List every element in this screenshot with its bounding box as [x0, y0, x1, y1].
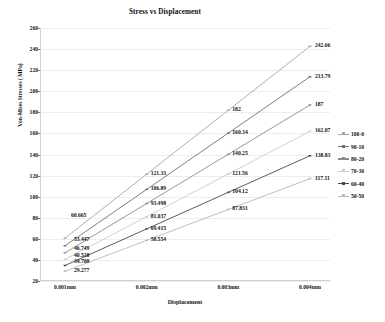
data-label: 69.415 [151, 225, 166, 231]
legend-swatch-icon [338, 193, 349, 199]
series-marker [64, 265, 67, 266]
x-axis-title: Displacement [40, 299, 330, 305]
data-label: 187 [315, 101, 323, 107]
legend-swatch-icon [338, 144, 349, 150]
data-label: 81.037 [151, 213, 166, 219]
series-marker [227, 154, 230, 155]
legend-swatch-icon [338, 156, 349, 162]
y-axis-tick-label: 120 [12, 173, 38, 179]
data-label: 93.498 [151, 200, 166, 206]
series-marker [64, 259, 67, 260]
y-axis-tick-label: 60 [12, 236, 38, 242]
series-marker [64, 237, 67, 238]
gridline [40, 281, 330, 282]
series-line [65, 156, 310, 266]
y-axis-tick-label: 20 [12, 278, 38, 284]
series-marker [145, 216, 148, 217]
data-label: 87.831 [232, 205, 247, 211]
data-label: 60.665 [71, 212, 86, 218]
legend-item[interactable]: 80-20 [338, 153, 385, 165]
series-marker [145, 228, 148, 229]
series-marker [145, 189, 148, 190]
series-marker [227, 209, 230, 210]
x-axis-tick-label: 0.002mm [122, 284, 172, 290]
data-label: 182 [232, 106, 240, 112]
y-axis-tick-label: 80 [12, 215, 38, 221]
y-axis-tick-label: 100 [12, 194, 38, 200]
y-axis-tick-label: 140 [12, 152, 38, 158]
legend-label: 50-50 [351, 193, 364, 199]
legend-item[interactable]: 70-30 [338, 165, 385, 177]
data-label: 58.554 [151, 236, 166, 242]
data-label: 106.89 [151, 185, 166, 191]
y-axis-tick-label: 180 [12, 109, 38, 115]
y-axis-tick-label: 200 [12, 88, 38, 94]
legend-swatch-icon [338, 168, 349, 174]
data-label: 40.518 [74, 252, 89, 258]
legend-item[interactable]: 100-0 [338, 128, 385, 140]
series-marker [309, 104, 312, 105]
series-marker [145, 203, 148, 204]
y-axis-title: Von-Mises Stresses ( MPa) [17, 35, 23, 155]
series-marker [309, 46, 312, 47]
legend-swatch-icon [338, 181, 349, 187]
legend-item[interactable]: 60-40 [338, 178, 385, 190]
series-line [65, 131, 310, 259]
data-label: 213.79 [315, 73, 330, 79]
legend-label: 100-0 [351, 131, 364, 137]
series-marker [309, 131, 312, 132]
series-marker [64, 252, 67, 253]
series-line [65, 46, 310, 238]
series-marker [309, 178, 312, 179]
legend-label: 70-30 [351, 168, 364, 174]
chart-container: Stress vs Displacement Von-Mises Stresse… [0, 0, 385, 322]
data-label: 29.277 [74, 267, 89, 273]
data-label: 121.56 [232, 170, 247, 176]
series-marker [64, 245, 67, 246]
data-label: 242.66 [315, 42, 330, 48]
series-marker [227, 132, 230, 133]
series-marker [227, 192, 230, 193]
series-marker [227, 110, 230, 111]
data-label: 138.83 [315, 152, 330, 158]
series-line [65, 179, 310, 272]
data-label: 46.749 [74, 245, 89, 251]
series-marker [145, 240, 148, 241]
legend-item[interactable]: 90-10 [338, 140, 385, 152]
x-axis-tick-label: 0.004mm [285, 284, 335, 290]
series-marker [145, 173, 148, 174]
y-axis-tick-label: 160 [12, 130, 38, 136]
data-label: 117.11 [315, 175, 330, 181]
plot-area [40, 28, 330, 281]
y-axis-tick-label: 260 [12, 25, 38, 31]
legend-item[interactable]: 50-50 [338, 190, 385, 202]
series-line [65, 105, 310, 253]
legend-swatch-icon [338, 131, 349, 137]
series-marker [227, 173, 230, 174]
series-line [65, 77, 310, 246]
y-axis-tick-label: 40 [12, 257, 38, 263]
data-label: 121.33 [151, 170, 166, 176]
legend-label: 90-10 [351, 144, 364, 150]
data-label: 162.07 [315, 127, 330, 133]
x-axis-tick-label: 0.001mm [40, 284, 90, 290]
y-axis-tick-label: 220 [12, 67, 38, 73]
y-axis-tick [37, 281, 40, 282]
data-label: 104.12 [232, 188, 247, 194]
x-axis-tick-label: 0.003mm [203, 284, 253, 290]
data-label: 160.34 [232, 129, 247, 135]
legend-label: 60-40 [351, 181, 364, 187]
series-marker [64, 271, 67, 272]
y-axis-tick-label: 240 [12, 46, 38, 52]
chart-title: Stress vs Displacement [0, 8, 330, 16]
data-label: 140.25 [232, 150, 247, 156]
data-label: 53.447 [74, 236, 89, 242]
series-marker [309, 155, 312, 156]
legend-label: 80-20 [351, 156, 364, 162]
data-label: 34.708 [74, 258, 89, 264]
series-lines [40, 28, 330, 281]
legend: 100-090-1080-2070-3060-4050-50 [338, 128, 385, 202]
series-marker [309, 76, 312, 77]
